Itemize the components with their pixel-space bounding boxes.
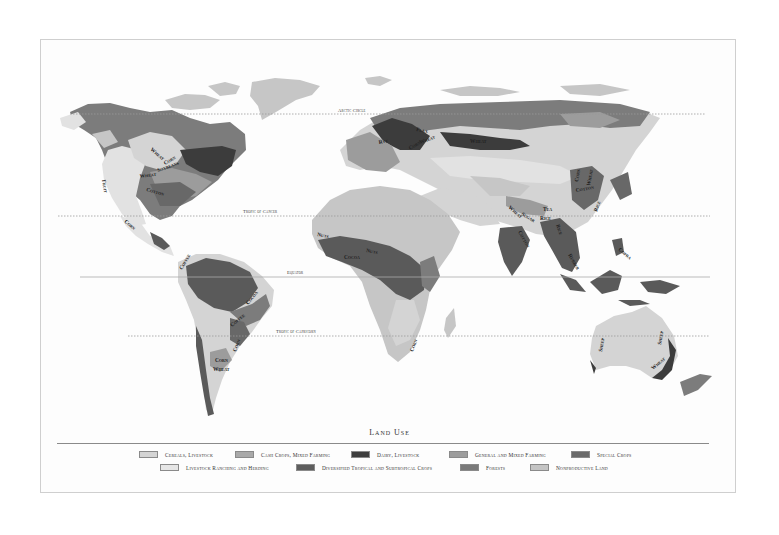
tropic-of-cancer-label: Tropic of Cancer — [243, 209, 277, 214]
legend-swatch — [139, 451, 158, 458]
legend-label: Special Crops — [597, 452, 632, 458]
landmass-north-america — [60, 103, 246, 256]
legend-item-nonproductive-land: Nonproductive Land — [530, 464, 608, 471]
legend-swatch — [571, 451, 590, 458]
legend-label: Cereals, Livestock — [165, 452, 213, 458]
legend-swatch — [296, 464, 315, 471]
crop-label: Tea — [543, 206, 552, 212]
legend-swatch — [351, 451, 370, 458]
crop-label: Fruit — [101, 179, 109, 193]
legend-label: General and Mixed Farming — [475, 452, 546, 458]
legend-divider — [57, 443, 709, 444]
tropic-of-capricorn-label: Tropic of Capricorn — [276, 329, 316, 334]
landmass-south-america — [178, 254, 274, 416]
crop-label: Rice — [540, 215, 551, 221]
legend-item-cereals-livestock: Cereals, Livestock — [139, 451, 235, 458]
legend-item-special-crops: Special Crops — [571, 451, 632, 458]
arctic-circle-label: Arctic Circle — [338, 108, 366, 113]
legend-row-2: Livestock Ranching and Herding Diversifi… — [160, 464, 608, 471]
crop-label: Cocoa — [344, 254, 360, 260]
legend-swatch — [449, 451, 468, 458]
crop-label: Corn — [215, 357, 228, 363]
legend-label: Livestock Ranching and Herding — [186, 465, 269, 471]
legend-item-general-mixed-farming: General and Mixed Farming — [449, 451, 571, 458]
legend-item-dairy-livestock: Dairy, Livestock — [351, 451, 449, 458]
legend-item-cash-crops: Cash Crops, Mixed Farming — [235, 451, 351, 458]
legend-item-diversified-tropical: Diversified Tropical and Subtropical Cro… — [296, 464, 460, 471]
legend-row-1: Cereals, Livestock Cash Crops, Mixed Far… — [139, 451, 632, 458]
crop-label: Wheat — [213, 366, 230, 372]
legend-label: Nonproductive Land — [556, 465, 608, 471]
legend-swatch — [530, 464, 549, 471]
legend-swatch — [235, 451, 254, 458]
legend-label: Forests — [486, 465, 505, 471]
legend-swatch — [160, 464, 179, 471]
legend-label: Diversified Tropical and Subtropical Cro… — [322, 465, 432, 471]
legend-title: Land Use — [0, 428, 779, 437]
equator-label: Equator — [287, 270, 303, 275]
landmass-australia — [590, 306, 712, 396]
crop-label: Wheat — [470, 138, 487, 144]
legend-item-forests: Forests — [460, 464, 530, 471]
legend-label: Cash Crops, Mixed Farming — [261, 452, 330, 458]
legend-swatch — [460, 464, 479, 471]
legend-label: Dairy, Livestock — [377, 452, 419, 458]
legend-item-livestock-ranching: Livestock Ranching and Herding — [160, 464, 296, 471]
